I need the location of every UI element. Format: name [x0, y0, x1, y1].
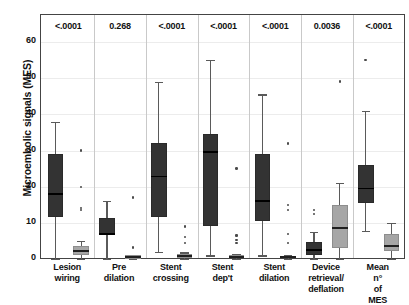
median-line	[332, 227, 348, 229]
boxplot-light	[332, 15, 348, 258]
cap-lower	[51, 259, 60, 260]
box-iqr	[151, 143, 167, 217]
cap-lower	[77, 259, 86, 260]
outlier-point	[80, 149, 83, 152]
y-axis-tick-label: 30	[10, 145, 36, 154]
whisker-lower	[391, 251, 392, 259]
x-axis-label: Stentdep't	[197, 262, 249, 284]
outlier-point	[287, 204, 289, 206]
whisker-upper	[365, 111, 366, 165]
outlier-point	[339, 80, 342, 83]
median-line	[384, 245, 400, 247]
y-axis-tick-label: 50	[10, 72, 36, 81]
box-iqr	[255, 154, 271, 221]
x-axis-label: Stentdilation	[248, 262, 300, 284]
panel-4: <.0001	[198, 15, 250, 258]
box-iqr	[358, 165, 374, 203]
outlier-point	[132, 246, 134, 248]
cap-lower	[258, 255, 267, 256]
plot-area: <.00010.268<.0001<.0001<.00010.0036<.000…	[40, 14, 405, 259]
cap-lower	[180, 259, 189, 260]
boxplot-light	[73, 15, 89, 258]
panel-1: <.0001	[42, 15, 94, 258]
outlier-point	[132, 196, 134, 198]
whisker-lower	[158, 217, 159, 251]
y-axis-tick-labels: 0102030405060	[8, 0, 36, 305]
cap-lower	[129, 259, 138, 260]
median-line	[125, 256, 141, 258]
boxplot-light	[229, 15, 245, 258]
y-axis-tick-label: 40	[10, 108, 36, 117]
y-axis-tick-label: 0	[10, 253, 36, 262]
cap-lower	[232, 259, 241, 260]
y-axis-tick-label: 20	[10, 181, 36, 190]
outlier-point	[364, 59, 367, 62]
cap-lower	[387, 259, 396, 260]
cap-upper	[206, 60, 215, 61]
outlier-point	[235, 242, 237, 244]
box-iqr	[203, 134, 219, 226]
boxplot-dark	[99, 15, 115, 258]
boxplot-light	[384, 15, 400, 258]
panel-5: <.0001	[249, 15, 301, 258]
outlier-point	[313, 213, 315, 215]
median-line	[151, 176, 167, 178]
x-axis-label: Lesionwiring	[41, 262, 93, 284]
x-axis-labels: LesionwiringPredilationStentcrossingSten…	[40, 262, 405, 305]
x-axis-label: Stentcrossing	[145, 262, 197, 284]
cap-upper	[77, 241, 86, 242]
outlier-point	[287, 242, 289, 244]
whisker-upper	[158, 82, 159, 143]
median-line	[358, 188, 374, 190]
cap-lower	[336, 259, 345, 260]
boxplot-light	[280, 15, 296, 258]
outlier-point	[184, 225, 186, 227]
cap-upper	[362, 111, 371, 112]
outlier-point	[184, 236, 186, 238]
panel-7: <.0001	[353, 15, 405, 258]
y-axis-tick-label: 60	[10, 36, 36, 45]
box-iqr	[384, 234, 400, 251]
panel-2: 0.268	[94, 15, 146, 258]
outlier-point	[287, 209, 289, 211]
cap-lower	[362, 231, 371, 232]
cap-upper	[387, 223, 396, 224]
whisker-upper	[313, 232, 314, 242]
cap-upper	[103, 201, 112, 202]
whisker-upper	[55, 122, 56, 155]
outlier-point	[287, 233, 289, 235]
cap-lower	[155, 252, 164, 253]
median-line	[280, 256, 296, 258]
x-axis-label: Predilation	[93, 262, 145, 284]
cap-upper	[258, 94, 267, 95]
outlier-point	[235, 239, 237, 241]
median-line	[73, 250, 89, 252]
boxplot-dark	[203, 15, 219, 258]
y-axis-tick-label: 10	[10, 217, 36, 226]
boxplot-dark	[48, 15, 64, 258]
panel-6: 0.0036	[301, 15, 353, 258]
cap-lower	[310, 259, 319, 260]
whisker-lower	[365, 203, 366, 231]
cap-upper	[310, 232, 319, 233]
whisker-upper	[391, 223, 392, 234]
boxplot-dark	[255, 15, 271, 258]
boxplot-light	[177, 15, 193, 258]
outlier-point	[80, 209, 82, 211]
median-line	[229, 256, 245, 258]
cap-lower	[206, 255, 215, 256]
outlier-point	[235, 234, 237, 236]
boxplot-light	[125, 15, 141, 258]
whisker-upper	[262, 94, 263, 154]
cap-upper	[51, 122, 60, 123]
boxplot-dark	[358, 15, 374, 258]
cap-upper	[336, 183, 345, 184]
boxplot-dark	[306, 15, 322, 258]
median-line	[203, 151, 219, 153]
median-line	[177, 255, 193, 257]
whisker-lower	[210, 226, 211, 255]
whisker-lower	[262, 221, 263, 255]
cap-lower	[103, 259, 112, 260]
outlier-point	[287, 142, 290, 145]
median-line	[255, 200, 271, 202]
